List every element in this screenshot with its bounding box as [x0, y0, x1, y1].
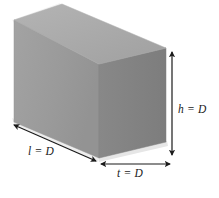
- cuboid-diagram-canvas: [0, 0, 219, 198]
- cuboid-dimension-figure: h = D l = D t = D: [0, 0, 219, 198]
- cuboid-right-end-face: [99, 48, 166, 158]
- height-dimension-label: h = D: [178, 104, 207, 116]
- length-dimension-label: l = D: [28, 146, 54, 158]
- thickness-dimension-label: t = D: [117, 168, 143, 180]
